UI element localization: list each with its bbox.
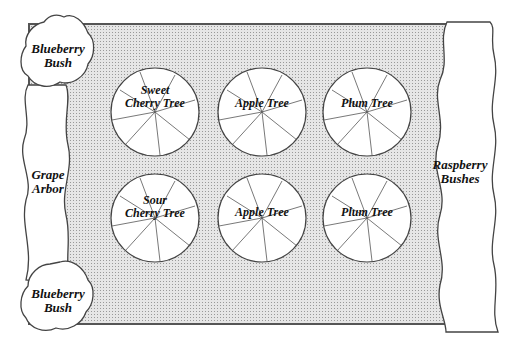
tree-sweet-cherry-label: Sweet Cherry Tree [110,84,200,110]
label-line: Apple Tree [217,206,307,219]
label-line: Bush [30,56,86,70]
label-line: Bushes [428,172,492,186]
tree-sour-cherry-label: Sour Cherry Tree [110,194,200,220]
tree-apple-bottom-label: Apple Tree [217,206,307,219]
label-line: Plum Tree [322,97,412,110]
label-line: Plum Tree [322,206,412,219]
blueberry-bush-bottom-label: Blueberry Bush [30,287,86,315]
label-line: Apple Tree [217,97,307,110]
tree-plum-top-label: Plum Tree [322,97,412,110]
blueberry-bush-top-label: Blueberry Bush [30,42,86,70]
tree-plum-bottom-label: Plum Tree [322,206,412,219]
label-line: Cherry Tree [110,97,200,110]
label-line: Blueberry [30,42,86,56]
label-line: Grape [26,168,70,182]
grape-arbor-label: Grape Arbor [26,168,70,196]
label-line: Arbor [26,182,70,196]
label-line: Raspberry [428,158,492,172]
tree-apple-top-label: Apple Tree [217,97,307,110]
raspberry-bushes-label: Raspberry Bushes [428,158,492,186]
label-line: Blueberry [30,287,86,301]
label-line: Bush [30,301,86,315]
label-line: Cherry Tree [110,207,200,220]
